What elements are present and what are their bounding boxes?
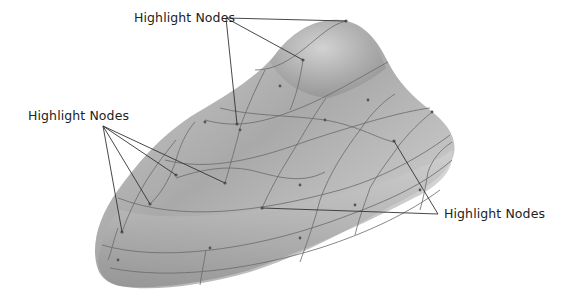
callout-label-left: Highlight Nodes: [28, 108, 129, 123]
callout-label-top: Highlight Nodes: [134, 10, 235, 25]
callout-label-right: Highlight Nodes: [444, 206, 545, 221]
surface-diagram: Highlight Nodes Highlight Nodes Highligh…: [0, 0, 562, 297]
surface-model: [0, 0, 562, 297]
leader-line: [226, 18, 346, 21]
surface-body: [95, 20, 455, 289]
